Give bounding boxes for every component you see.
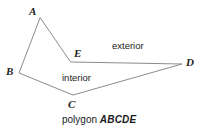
vertex-label-e: E xyxy=(74,48,81,59)
vertex-label-b: B xyxy=(6,66,13,77)
vertex-label-c: C xyxy=(68,99,75,110)
exterior-region-label: exterior xyxy=(112,41,144,51)
figure-caption: polygon ABCDE xyxy=(62,114,136,125)
polygon-figure: A B C D E exterior interior polygon ABCD… xyxy=(0,0,217,130)
polygon-drawing xyxy=(0,0,217,130)
caption-prefix: polygon xyxy=(62,114,100,125)
interior-region-label: interior xyxy=(62,73,91,83)
polygon-abcde-shape xyxy=(19,18,182,95)
caption-polygon-name: ABCDE xyxy=(100,114,137,125)
vertex-label-d: D xyxy=(186,57,194,68)
vertex-label-a: A xyxy=(29,6,36,17)
